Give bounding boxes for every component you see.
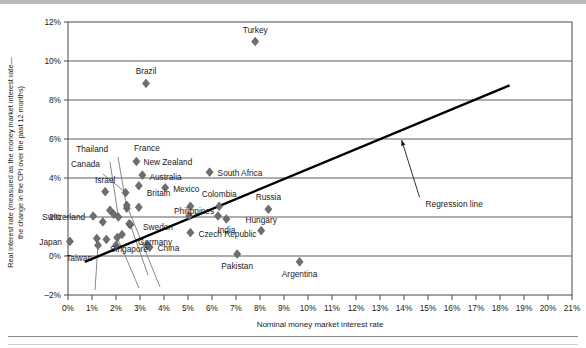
x-tick-label: 0% xyxy=(62,303,75,313)
x-tick-label: 17% xyxy=(468,303,485,313)
annotation-arrow xyxy=(402,140,420,197)
y-tick-label: –2% xyxy=(44,290,61,300)
bottom-divider-secondary xyxy=(8,344,578,345)
data-point-label: Hungary xyxy=(246,215,278,225)
y-tick-label: 6% xyxy=(49,134,62,144)
data-point-label: Brazil xyxy=(136,66,157,76)
data-point-label: India xyxy=(217,225,235,235)
data-point-label: Sweden xyxy=(143,222,173,232)
leader-line xyxy=(95,245,98,290)
data-marker xyxy=(142,79,149,88)
y-axis-title-line1: Real interest rate (measured as the mone… xyxy=(6,57,15,268)
data-point-label: Argentina xyxy=(282,269,318,279)
data-marker xyxy=(93,234,100,243)
x-tick-label: 5% xyxy=(182,303,195,313)
data-marker xyxy=(103,235,110,244)
x-tick-label: 19% xyxy=(516,303,533,313)
bottom-divider xyxy=(8,336,578,337)
top-divider xyxy=(0,0,586,4)
x-tick-label: 16% xyxy=(444,303,461,313)
data-point-label: Germany xyxy=(138,237,173,247)
x-tick-label: 4% xyxy=(158,303,171,313)
data-marker xyxy=(99,218,106,227)
y-tick-label: 12% xyxy=(44,17,61,27)
leader-line xyxy=(118,157,127,208)
x-tick-label: 20% xyxy=(540,303,557,313)
y-axis-title-line2: the change in the CPI over the past 12 m… xyxy=(16,86,25,239)
annotation-label: Regression line xyxy=(426,199,484,209)
y-tick-label: 10% xyxy=(44,56,61,66)
data-marker xyxy=(234,250,241,259)
data-point-label: Canada xyxy=(71,159,100,169)
data-point-label: Britain xyxy=(147,188,171,198)
chart-annotations: Regression line xyxy=(401,140,483,209)
data-marker xyxy=(122,188,129,197)
data-point-label: South Africa xyxy=(218,168,263,178)
data-point-label: Israel xyxy=(95,175,115,185)
y-tick-labels: –2%0%2%4%6%8%10%12% xyxy=(44,17,68,300)
x-tick-label: 12% xyxy=(348,303,365,313)
data-marker xyxy=(133,157,140,166)
y-tick-label: 4% xyxy=(49,173,62,183)
scatter-chart: Real interest rate (measured as the mone… xyxy=(0,0,586,348)
x-tick-label: 11% xyxy=(324,303,341,313)
data-marker xyxy=(66,237,73,246)
x-tick-label: 10% xyxy=(300,303,317,313)
x-tick-label: 13% xyxy=(372,303,389,313)
data-marker xyxy=(252,37,259,46)
data-point-label: Russia xyxy=(256,192,282,202)
x-tick-label: 9% xyxy=(278,303,291,313)
annotation-arrowhead xyxy=(401,140,405,146)
x-ticks xyxy=(68,295,572,300)
data-marker xyxy=(187,228,194,237)
data-point-labels: TurkeyBrazilNew ZealandFranceThailandCan… xyxy=(39,25,317,279)
data-marker xyxy=(135,182,142,191)
data-marker xyxy=(206,168,213,177)
x-tick-labels: 0%1%2%3%4%5%6%7%8%9%10%11%12%13%14%15%16… xyxy=(62,303,581,313)
data-point-label: Taiwan xyxy=(66,253,92,263)
data-marker xyxy=(296,258,303,267)
data-point-label: New Zealand xyxy=(143,157,192,167)
data-point-label: France xyxy=(134,143,160,153)
data-point-label: Australia xyxy=(149,172,182,182)
x-tick-label: 21% xyxy=(564,303,581,313)
data-marker xyxy=(258,226,265,235)
data-point-label: Japan xyxy=(39,237,62,247)
x-tick-label: 14% xyxy=(396,303,413,313)
x-axis-title: Nominal money market interest rate xyxy=(257,320,384,329)
data-marker xyxy=(94,241,101,250)
y-axis-title: Real interest rate (measured as the mone… xyxy=(6,57,25,268)
data-point-label: Pakistan xyxy=(221,261,253,271)
data-marker xyxy=(265,205,272,214)
data-marker xyxy=(216,202,223,211)
x-tick-label: 8% xyxy=(254,303,267,313)
x-tick-label: 18% xyxy=(492,303,509,313)
data-point-label: Switzerland xyxy=(42,212,85,222)
data-point-label: Colombia xyxy=(202,189,237,199)
data-point-label: Turkey xyxy=(243,25,269,35)
data-marker xyxy=(90,212,97,221)
data-point-label: Thailand xyxy=(76,144,108,154)
x-tick-label: 1% xyxy=(86,303,99,313)
figure-container: Real interest rate (measured as the mone… xyxy=(0,0,586,348)
x-tick-label: 6% xyxy=(206,303,219,313)
data-point-label: Philippines xyxy=(174,206,214,216)
x-tick-label: 2% xyxy=(110,303,123,313)
data-marker xyxy=(135,203,142,212)
y-tick-label: 0% xyxy=(49,251,62,261)
data-marker xyxy=(214,212,221,221)
data-marker xyxy=(223,215,230,224)
data-marker xyxy=(102,187,109,196)
x-tick-label: 15% xyxy=(420,303,437,313)
x-tick-label: 7% xyxy=(230,303,243,313)
data-point-label: Mexico xyxy=(173,184,200,194)
y-tick-label: 8% xyxy=(49,95,62,105)
x-tick-label: 3% xyxy=(134,303,147,313)
